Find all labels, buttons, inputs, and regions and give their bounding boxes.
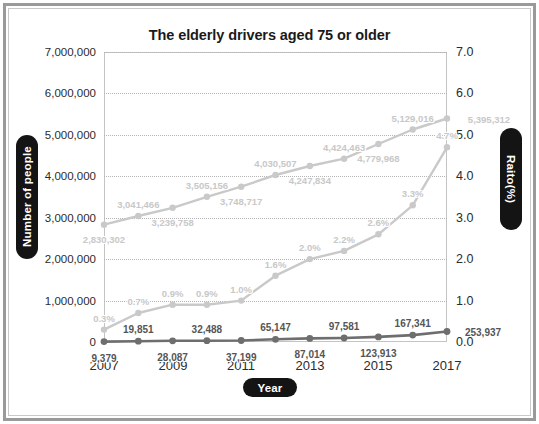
y-axis-right-tick-label: 1.0 bbox=[456, 294, 504, 308]
data-label: 5,395,312 bbox=[468, 113, 510, 124]
data-label: 5,129,016 bbox=[392, 112, 434, 123]
y-axis-left-tick-label: 6,000,000 bbox=[0, 87, 96, 99]
data-label: 3,748,717 bbox=[220, 195, 262, 206]
data-label: 2.2% bbox=[333, 233, 355, 244]
data-label: 37,199 bbox=[226, 351, 257, 362]
y-axis-left-title: Number of people bbox=[16, 135, 38, 259]
y-axis-right-tick-label: 2.0 bbox=[456, 252, 504, 266]
data-label: 97,581 bbox=[329, 321, 360, 332]
gridline bbox=[104, 176, 447, 177]
data-label: 3.3% bbox=[402, 188, 424, 199]
data-label: 4.7% bbox=[436, 130, 458, 141]
data-label: 167,341 bbox=[395, 318, 431, 329]
page-title: The elderly drivers aged 75 or older bbox=[0, 27, 539, 43]
data-label: 123,913 bbox=[360, 347, 396, 358]
chart-screenshot: The elderly drivers aged 75 or older 01,… bbox=[0, 0, 539, 424]
data-label: 2.0% bbox=[299, 242, 321, 253]
y-axis-right-tick-label: 7.0 bbox=[456, 45, 504, 59]
data-label: 4,424,463 bbox=[323, 141, 365, 152]
data-label: 19,851 bbox=[123, 324, 154, 335]
data-label: 2,830,302 bbox=[83, 233, 125, 244]
data-label: 9,379 bbox=[91, 352, 116, 363]
y-axis-left-tick-label: 0 bbox=[0, 336, 96, 348]
y-axis-left-tick-label: 2,000,000 bbox=[0, 253, 96, 265]
data-label: 253,937 bbox=[465, 326, 501, 337]
data-label: 1.6% bbox=[265, 258, 287, 269]
y-axis-right-tick-label: 4.0 bbox=[456, 169, 504, 183]
y-axis-left-tick-label: 1,000,000 bbox=[0, 295, 96, 307]
data-label: 4,779,968 bbox=[357, 153, 399, 164]
data-label: 2.6% bbox=[368, 217, 390, 228]
plot-area bbox=[104, 52, 447, 342]
data-label: 4,247,834 bbox=[289, 175, 331, 186]
x-axis-tick-label: 2015 bbox=[364, 358, 393, 373]
gridline bbox=[104, 135, 447, 136]
y-axis-right-tick-label: 6.0 bbox=[456, 86, 504, 100]
y-axis-left-tick-label: 4,000,000 bbox=[0, 170, 96, 182]
gridline bbox=[104, 301, 447, 302]
data-label: 1.0% bbox=[230, 283, 252, 294]
y-axis-right-tick-label: 3.0 bbox=[456, 211, 504, 225]
data-label: 3,239,758 bbox=[151, 216, 193, 227]
data-label: 0.7% bbox=[127, 296, 149, 307]
data-label: 32,488 bbox=[192, 323, 223, 334]
y-axis-left-tick-label: 7,000,000 bbox=[0, 46, 96, 58]
data-label: 28,087 bbox=[157, 351, 188, 362]
gridline bbox=[104, 93, 447, 94]
data-label: 3,041,466 bbox=[117, 199, 159, 210]
y-axis-left-tick-label: 5,000,000 bbox=[0, 129, 96, 141]
data-label: 87,014 bbox=[295, 349, 326, 360]
y-axis-left-tick-label: 3,000,000 bbox=[0, 212, 96, 224]
x-axis-tick-label: 2017 bbox=[433, 358, 462, 373]
gridline bbox=[104, 52, 447, 53]
y-axis-right-tick-label: 5.0 bbox=[456, 128, 504, 142]
data-label: 65,147 bbox=[260, 322, 291, 333]
data-label: 0.9% bbox=[196, 287, 218, 298]
data-label: 0.3% bbox=[93, 312, 115, 323]
x-axis-title: Year bbox=[243, 378, 297, 397]
data-label: 3,505,156 bbox=[186, 179, 228, 190]
y-axis-right-tick-label: 0.0 bbox=[456, 335, 504, 349]
x-axis-tick-label: 2013 bbox=[296, 358, 325, 373]
data-label: 4,030,507 bbox=[254, 158, 296, 169]
data-label: 0.9% bbox=[162, 287, 184, 298]
y-axis-right-title: Raito(%) bbox=[500, 128, 522, 230]
